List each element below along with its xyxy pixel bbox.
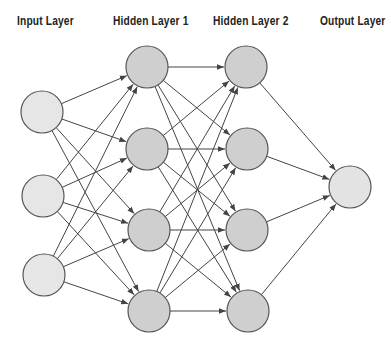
connection-arrow [267,156,330,179]
hidden2-node-2 [226,128,268,170]
hidden2-node-1 [225,46,267,88]
connection-arrow [62,119,126,142]
output-node-1 [329,166,371,208]
hidden1-node-4 [128,290,170,332]
input-node-2 [22,175,64,217]
connection-arrow [52,130,139,291]
connection-arrow [57,166,133,259]
connection-arrow [260,83,336,171]
hidden2-node-4 [227,290,269,332]
network-diagram [0,0,391,349]
connection-arrow [261,204,336,295]
connection-arrow [63,202,128,223]
connection-arrow [163,81,229,136]
input-node-3 [23,254,65,296]
connection-arrow [165,244,230,298]
connection-arrow [53,87,137,256]
hidden1-node-3 [128,209,170,251]
connection-arrow [56,84,133,180]
connections [52,67,336,311]
hidden1-node-1 [126,46,168,88]
input-node-1 [21,91,63,133]
hidden1-node-2 [126,128,168,170]
connection-arrow [63,239,128,267]
connection-arrow [266,195,329,221]
hidden2-node-3 [226,209,268,251]
connection-arrow [61,76,126,104]
connection-arrow [157,87,238,291]
connection-arrow [64,282,128,304]
